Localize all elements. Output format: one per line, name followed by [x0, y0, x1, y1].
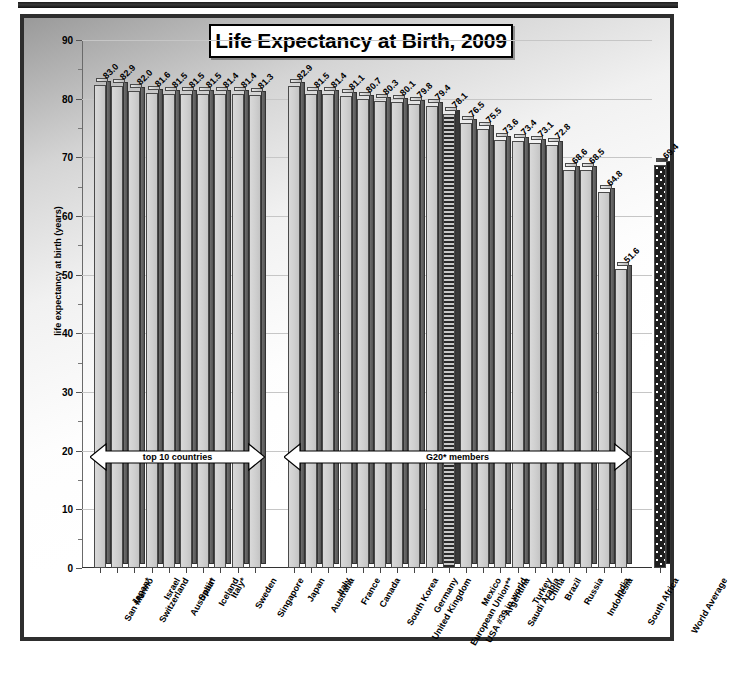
y-tick-mark	[76, 509, 82, 510]
y-tick-mark	[76, 99, 82, 100]
bar[interactable]	[163, 90, 175, 568]
x-tick-mark	[346, 568, 347, 573]
bar-front-face	[214, 94, 226, 568]
bar[interactable]	[94, 81, 106, 568]
bar[interactable]	[460, 119, 472, 568]
bar[interactable]	[146, 89, 158, 568]
bar-front-face	[529, 143, 541, 568]
bar[interactable]	[340, 92, 352, 568]
x-tick-mark	[363, 568, 364, 573]
gridline	[82, 40, 652, 41]
bar-front-face	[563, 170, 575, 568]
range-annotation-arrow: G20* members	[284, 442, 631, 472]
bar-front-face	[249, 95, 261, 568]
bar[interactable]	[322, 90, 334, 568]
bar-front-face	[128, 91, 140, 568]
bar[interactable]	[494, 136, 506, 568]
bar[interactable]	[563, 166, 575, 568]
bar[interactable]	[654, 161, 666, 568]
bar-front-face	[305, 94, 317, 568]
bar-front-face	[580, 170, 592, 568]
y-tick-label: 40	[62, 328, 73, 339]
bar-front-face	[494, 140, 506, 568]
x-tick-mark	[311, 568, 312, 573]
bar-front-face	[598, 192, 610, 568]
bar-value-label: 82.0	[135, 67, 154, 86]
x-tick-mark	[328, 568, 329, 573]
y-tick-mark	[76, 216, 82, 217]
bar[interactable]	[232, 90, 244, 568]
bar-front-face	[615, 269, 627, 568]
bar-side-face	[627, 265, 632, 564]
bar[interactable]	[529, 139, 541, 568]
bar[interactable]	[111, 82, 123, 568]
x-tick-mark	[134, 568, 135, 573]
y-tick-label: 30	[62, 387, 73, 398]
y-tick-minor	[78, 245, 82, 246]
x-tick-mark	[569, 568, 570, 573]
bar[interactable]	[197, 90, 209, 568]
x-tick-mark	[660, 568, 661, 573]
x-tick-mark	[449, 568, 450, 573]
bar[interactable]	[512, 137, 524, 568]
y-tick-label: 80	[62, 93, 73, 104]
bar-front-face	[111, 86, 123, 568]
y-tick-mark	[76, 333, 82, 334]
x-tick-mark	[169, 568, 170, 573]
bar-front-face	[512, 141, 524, 568]
bar[interactable]	[180, 90, 192, 568]
bar[interactable]	[443, 110, 455, 568]
y-tick-label: 0	[67, 563, 73, 574]
bar[interactable]	[305, 90, 317, 568]
y-tick-minor	[78, 69, 82, 70]
bar[interactable]	[477, 125, 489, 568]
bar-value-label: 80.7	[364, 75, 383, 94]
x-tick-mark	[294, 568, 295, 573]
bar-front-face	[322, 94, 334, 568]
bar[interactable]	[374, 97, 386, 568]
bar[interactable]	[391, 98, 403, 568]
x-tick-mark	[238, 568, 239, 573]
bar-front-face	[391, 102, 403, 568]
bar[interactable]	[357, 95, 369, 568]
y-tick-minor	[78, 304, 82, 305]
x-tick-mark	[466, 568, 467, 573]
bar[interactable]	[615, 265, 627, 568]
bar[interactable]	[408, 100, 420, 568]
y-tick-label: 70	[62, 152, 73, 163]
x-tick-mark	[186, 568, 187, 573]
y-tick-minor	[78, 128, 82, 129]
bar-front-face	[146, 93, 158, 568]
y-tick-minor	[78, 187, 82, 188]
y-tick-label: 60	[62, 211, 73, 222]
x-tick-mark	[414, 568, 415, 573]
bar[interactable]	[249, 91, 261, 568]
x-tick-mark	[552, 568, 553, 573]
bar[interactable]	[598, 188, 610, 568]
bar-front-face	[426, 106, 438, 568]
y-tick-mark	[76, 40, 82, 41]
bar[interactable]	[214, 90, 226, 568]
x-tick-mark	[500, 568, 501, 573]
bar-side-face	[261, 91, 266, 564]
bar[interactable]	[128, 87, 140, 568]
bar[interactable]	[288, 82, 300, 568]
bar[interactable]	[426, 102, 438, 568]
y-axis-line	[82, 40, 83, 568]
bar-front-face	[546, 145, 558, 568]
bar[interactable]	[580, 166, 592, 568]
x-tick-mark	[621, 568, 622, 573]
top-divider-gap	[18, 8, 678, 10]
y-tick-minor	[78, 363, 82, 364]
bar[interactable]	[546, 141, 558, 568]
x-tick-mark	[604, 568, 605, 573]
bar-front-face	[94, 85, 106, 568]
x-tick-mark	[255, 568, 256, 573]
bar-front-face	[197, 94, 209, 568]
x-tick-mark	[586, 568, 587, 573]
annotation-label: G20* members	[426, 452, 489, 462]
bar-front-face	[374, 101, 386, 568]
y-tick-label: 10	[62, 504, 73, 515]
y-tick-mark	[76, 275, 82, 276]
bar-front-face	[232, 94, 244, 568]
